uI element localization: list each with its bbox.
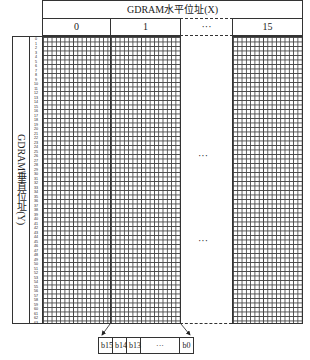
bit-ellipsis: ··· [141, 338, 180, 353]
bit-b0: b0 [180, 338, 193, 353]
bit-b13: b13 [127, 338, 141, 353]
bit-layout-row: b15 b14 b13 ··· b0 [98, 337, 194, 354]
bit-b15: b15 [99, 338, 113, 353]
bit-b14: b14 [113, 338, 127, 353]
bit-arrows [0, 0, 310, 360]
